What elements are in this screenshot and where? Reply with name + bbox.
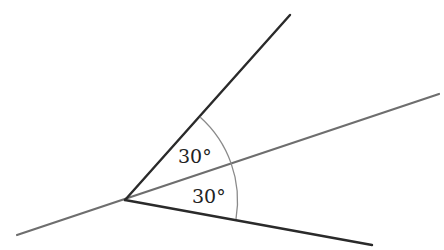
- lower-ray: [125, 200, 372, 245]
- upper-angle-label: 30°: [178, 145, 212, 167]
- lower-angle-label: 30°: [192, 185, 226, 207]
- angle-diagram: 30° 30°: [0, 0, 444, 250]
- bisector-line: [17, 94, 439, 235]
